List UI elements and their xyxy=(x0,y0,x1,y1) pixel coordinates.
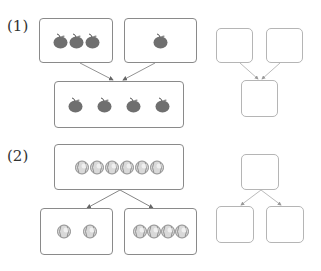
apple-icon xyxy=(85,33,100,49)
apple-group xyxy=(153,33,168,49)
p1-part-box-left xyxy=(39,18,113,63)
baseball-icon xyxy=(175,224,189,239)
baseball-group xyxy=(75,160,164,175)
baseball-icon xyxy=(120,160,134,175)
baseball-icon xyxy=(57,224,71,239)
p1-answer-box-right[interactable] xyxy=(266,28,303,63)
p1-answer-box-whole[interactable] xyxy=(241,80,278,117)
baseball-icon xyxy=(75,160,89,175)
baseball-icon xyxy=(135,160,149,175)
problem-1-label: (1) xyxy=(7,17,28,35)
p2-answer-box-right[interactable] xyxy=(266,206,304,243)
baseball-icon xyxy=(147,224,161,239)
apple-icon xyxy=(153,33,168,49)
baseball-icon xyxy=(83,224,97,239)
p1-part-box-right xyxy=(124,18,197,63)
problem-2-label: (2) xyxy=(7,147,28,165)
p2-part-box-left xyxy=(40,208,113,255)
p1-whole-box xyxy=(54,81,184,128)
p2-part-box-right xyxy=(124,208,197,255)
baseball-icon xyxy=(105,160,119,175)
apple-group xyxy=(68,97,170,113)
apple-icon xyxy=(126,97,141,113)
baseball-group xyxy=(133,224,189,239)
apple-icon xyxy=(97,97,112,113)
apple-icon xyxy=(68,97,83,113)
baseball-icon xyxy=(133,224,147,239)
baseball-group xyxy=(57,224,97,239)
apple-icon xyxy=(53,33,68,49)
apple-icon xyxy=(69,33,84,49)
apple-group xyxy=(53,33,100,49)
p2-answer-box-left[interactable] xyxy=(216,206,254,243)
p1-answer-box-left[interactable] xyxy=(216,28,253,63)
baseball-icon xyxy=(161,224,175,239)
apple-icon xyxy=(155,97,170,113)
p2-whole-box xyxy=(54,144,184,190)
baseball-icon xyxy=(150,160,164,175)
baseball-icon xyxy=(90,160,104,175)
p2-answer-box-whole[interactable] xyxy=(241,154,279,190)
